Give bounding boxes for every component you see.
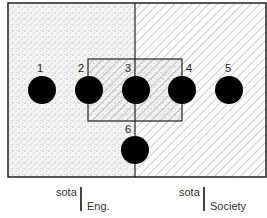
point-4 <box>168 76 196 104</box>
caption-society-top: sota <box>179 186 200 198</box>
point-label-4: 4 <box>186 62 192 74</box>
point-label-6: 6 <box>125 123 131 135</box>
point-6 <box>121 136 149 164</box>
caption-society-bar <box>203 187 205 211</box>
point-label-1: 1 <box>37 62 43 74</box>
point-label-5: 5 <box>225 62 231 74</box>
point-label-3: 3 <box>125 62 131 74</box>
caption-eng-bar <box>80 187 82 211</box>
point-2 <box>75 76 103 104</box>
point-label-2: 2 <box>78 62 84 74</box>
venn-diagram <box>0 0 267 218</box>
caption-eng-bottom: Eng. <box>87 200 110 212</box>
point-5 <box>215 76 243 104</box>
point-1 <box>28 76 56 104</box>
point-3 <box>122 76 150 104</box>
caption-eng-top: sota <box>56 186 77 198</box>
caption-society-bottom: Society <box>210 200 246 212</box>
